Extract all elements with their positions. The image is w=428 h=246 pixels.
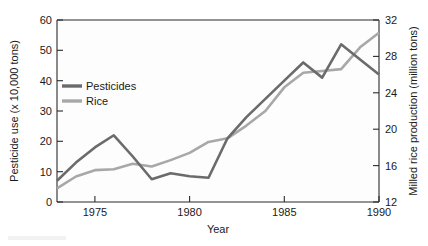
left-tick-label: 30	[40, 105, 52, 117]
right-tick-label: 24	[385, 87, 397, 99]
left-tick-label: 0	[46, 196, 52, 208]
x-axis-tick-labels: 1975 1980 1985 1990	[83, 206, 392, 218]
legend-label-rice: Rice	[86, 95, 108, 107]
right-tick-label: 28	[385, 50, 397, 62]
plot-area-background	[57, 20, 379, 202]
left-tick-label: 20	[40, 135, 52, 147]
page-artifact	[8, 236, 66, 240]
right-axis-tick-labels: 32 28 24 20 16 12	[385, 14, 397, 208]
right-tick-label: 16	[385, 160, 397, 172]
right-tick-label: 20	[385, 123, 397, 135]
line-chart: 60 50 40 30 20 10 0 32 28 24 20 16 12	[0, 0, 428, 246]
left-axis-tick-labels: 60 50 40 30 20 10 0	[40, 14, 52, 208]
left-tick-label: 60	[40, 14, 52, 26]
x-tick-label: 1990	[367, 206, 391, 218]
left-axis-title: Pesticide use (x 10,000 tons)	[8, 40, 20, 182]
left-tick-label: 50	[40, 44, 52, 56]
legend-label-pesticides: Pesticides	[86, 80, 137, 92]
x-axis-title: Year	[207, 223, 230, 235]
x-tick-label: 1980	[177, 206, 201, 218]
right-tick-label: 32	[385, 14, 397, 26]
left-tick-label: 40	[40, 75, 52, 87]
right-axis-title: Milled rice production (million tons)	[407, 26, 419, 195]
chart-container: 60 50 40 30 20 10 0 32 28 24 20 16 12	[0, 0, 428, 246]
left-tick-label: 10	[40, 166, 52, 178]
x-tick-label: 1985	[272, 206, 296, 218]
x-tick-label: 1975	[83, 206, 107, 218]
